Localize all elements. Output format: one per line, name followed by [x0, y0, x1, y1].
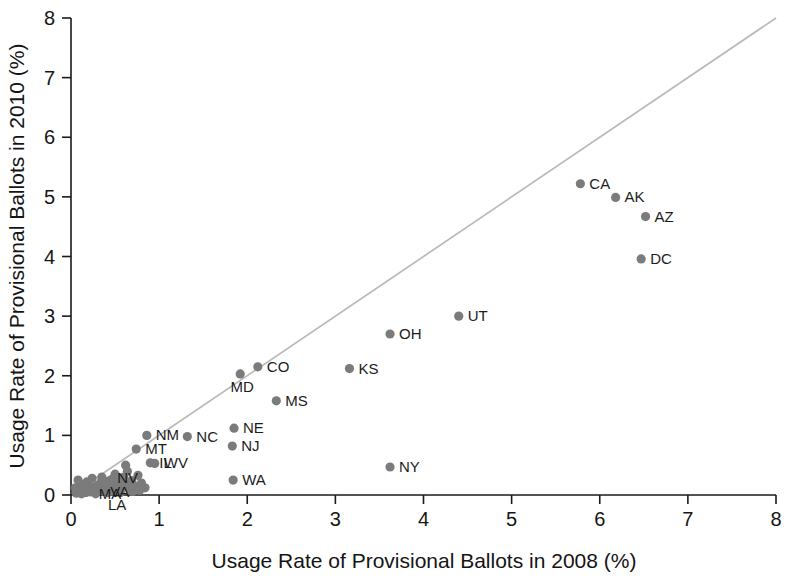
point-label-az: AZ	[655, 208, 674, 225]
data-point-ak	[611, 193, 620, 202]
point-label-ny: NY	[399, 458, 420, 475]
point-label-nj: NJ	[241, 437, 259, 454]
scatter-plot-figure: 012345678012345678 CAAKAZDCUTOHKSCOMDMSN…	[0, 0, 791, 578]
x-tick-label: 8	[770, 508, 781, 530]
point-label-ut: UT	[468, 307, 488, 324]
point-label-ne: NE	[243, 419, 264, 436]
data-point	[73, 475, 82, 484]
x-tick-label: 1	[154, 508, 165, 530]
point-label-ak: AK	[625, 188, 645, 205]
y-tick-label: 5	[44, 186, 55, 208]
y-tick-label: 4	[44, 246, 55, 268]
data-point-ne	[229, 424, 238, 433]
data-point	[79, 484, 88, 493]
data-point-co	[253, 362, 262, 371]
y-axis-title: Usage Rate of Provisional Ballots in 201…	[5, 44, 28, 469]
data-point	[97, 473, 106, 482]
y-tick-label: 8	[44, 7, 55, 29]
point-label-wv: WV	[164, 454, 188, 471]
point-label-ca: CA	[589, 175, 610, 192]
data-point-dc	[637, 254, 646, 263]
data-point-oh	[385, 329, 394, 338]
data-point-nj	[228, 442, 237, 451]
data-point-az	[641, 212, 650, 221]
y-tick-label: 6	[44, 126, 55, 148]
point-label-wa: WA	[242, 471, 266, 488]
x-tick-label: 4	[418, 508, 429, 530]
y-tick-label: 7	[44, 67, 55, 89]
x-tick-label: 5	[506, 508, 517, 530]
x-tick-label: 3	[330, 508, 341, 530]
y-tick-label: 2	[44, 365, 55, 387]
data-point-ca	[576, 179, 585, 188]
point-label-nc: NC	[196, 428, 218, 445]
point-label-md: MD	[231, 378, 254, 395]
data-point-nc	[183, 432, 192, 441]
data-point-ms	[272, 396, 281, 405]
y-tick-label: 0	[44, 484, 55, 506]
y-tick-label: 3	[44, 305, 55, 327]
x-tick-label: 6	[594, 508, 605, 530]
x-tick-label: 0	[65, 508, 76, 530]
point-label-la: LA	[108, 496, 126, 513]
chart-canvas: 012345678012345678 CAAKAZDCUTOHKSCOMDMSN…	[0, 0, 791, 578]
data-point-ut	[454, 312, 463, 321]
data-point	[135, 486, 144, 495]
data-point-ks	[345, 364, 354, 373]
point-labels: CAAKAZDCUTOHKSCOMDMSNENJWANYNCNMMTNVILWV…	[99, 175, 674, 513]
data-point-wv	[150, 459, 159, 468]
data-point	[88, 474, 97, 483]
point-label-ms: MS	[285, 392, 308, 409]
data-point-ny	[385, 462, 394, 471]
point-label-oh: OH	[399, 325, 422, 342]
x-tick-label: 2	[242, 508, 253, 530]
x-axis-title: Usage Rate of Provisional Ballots in 200…	[212, 549, 637, 572]
x-tick-label: 7	[682, 508, 693, 530]
data-point-mt	[132, 444, 141, 453]
data-point-nm	[142, 431, 151, 440]
point-label-ks: KS	[358, 360, 378, 377]
y-tick-label: 1	[44, 424, 55, 446]
point-label-co: CO	[267, 358, 290, 375]
data-point-wa	[229, 475, 238, 484]
point-label-dc: DC	[650, 250, 672, 267]
